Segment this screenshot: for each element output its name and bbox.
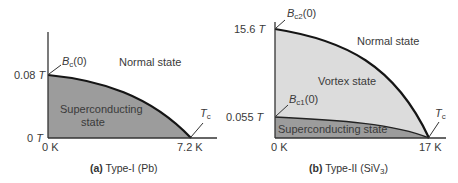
- y-tick-zero-a: 0 T: [27, 133, 43, 144]
- bc0-leader-a: [49, 65, 61, 74]
- tc-leader-a: [191, 123, 203, 137]
- vortex-state-label-b: Vortex state: [318, 76, 376, 87]
- x-tick-tc-a: 7.2 K: [177, 142, 203, 153]
- x-tick-zero-b: 0 K: [271, 142, 288, 153]
- phase-diagrams: [0, 0, 458, 183]
- panel-a-plot: [48, 32, 217, 138]
- x-tick-zero-a: 0 K: [42, 142, 59, 153]
- normal-state-label-b: Normal state: [357, 36, 419, 47]
- superconducting-state-label-b: Superconducting state: [278, 124, 387, 135]
- superconducting-label-a-line1: Superconducting: [60, 104, 143, 115]
- y-tick-upper-b: 15.6 T: [234, 24, 265, 35]
- caption-a: (a) Type-I (Pb): [90, 162, 158, 174]
- caption-b: (b) Type-II (SiV3): [309, 162, 388, 176]
- y-tick-lower-b: 0.055 T: [226, 112, 263, 123]
- tc-label-a: Tc: [200, 108, 211, 121]
- bc2-label-b: Bc2(0): [287, 8, 316, 21]
- bc1-label-b: Bc1(0): [289, 94, 318, 107]
- superconducting-label-a-line2: state: [81, 117, 105, 128]
- tc-label-b: Tc: [435, 108, 446, 121]
- bc2-leader-b: [276, 20, 285, 28]
- normal-state-label-a: Normal state: [119, 57, 181, 68]
- tc-leader-b: [429, 122, 439, 137]
- y-tick-top-a: 0.08 T: [14, 70, 45, 81]
- x-tick-tc-b: 17 K: [419, 142, 442, 153]
- bc0-label-a: Bc(0): [62, 56, 87, 69]
